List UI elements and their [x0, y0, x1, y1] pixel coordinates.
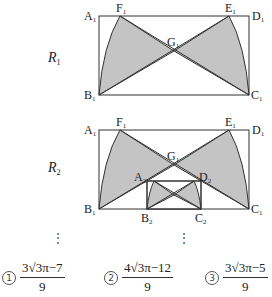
point-a2: A2	[134, 171, 146, 187]
r1-label: R1	[48, 50, 61, 67]
point-c1: C1	[251, 89, 263, 105]
point-a1: A1	[84, 10, 96, 26]
point-d2: D2	[199, 171, 211, 187]
choice-fraction: 4√3π−12 9	[122, 260, 173, 295]
point-e1: E1	[225, 2, 236, 18]
point-g1-r2: G1	[167, 150, 179, 166]
choice-marker: 2	[104, 271, 118, 285]
choice-3[interactable]: 3 3√3π−5 9	[205, 260, 268, 295]
point-c1-r2: C1	[251, 203, 263, 219]
point-c2: C2	[195, 212, 207, 228]
point-b1-r2: B1	[84, 203, 96, 219]
figure-canvas	[0, 0, 272, 297]
ellipsis-right: ⋮	[178, 236, 190, 241]
point-f1: F1	[116, 2, 126, 18]
choice-1[interactable]: 1 3√3π−7 9	[2, 260, 65, 295]
point-e1-r2: E1	[225, 116, 236, 132]
point-b2: B2	[141, 212, 153, 228]
point-a1-r2: A1	[84, 124, 96, 140]
point-b1: B1	[84, 89, 96, 105]
choice-fraction: 3√3π−5 9	[223, 260, 268, 295]
choice-marker: 3	[205, 271, 219, 285]
choice-2[interactable]: 2 4√3π−12 9	[104, 260, 173, 295]
point-g1: G1	[167, 36, 179, 52]
choice-fraction: 3√3π−7 9	[20, 260, 65, 295]
ellipsis-left: ⋮	[52, 236, 64, 241]
point-d1: D1	[252, 10, 264, 26]
r2-label: R2	[48, 160, 61, 177]
choice-marker: 1	[2, 271, 16, 285]
figure-r1	[99, 16, 249, 95]
figure-r2	[99, 130, 249, 209]
point-d1-r2: D1	[252, 124, 264, 140]
point-f1-r2: F1	[116, 116, 126, 132]
